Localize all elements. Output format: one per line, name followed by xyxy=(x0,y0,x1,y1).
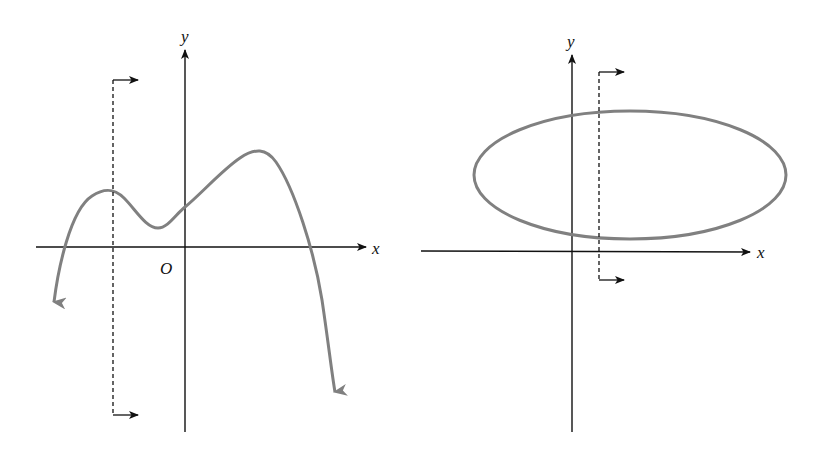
left-x-label: x xyxy=(371,239,380,258)
ellipse-curve xyxy=(474,111,786,239)
origin-label: O xyxy=(160,259,172,278)
left-y-label: y xyxy=(179,27,189,46)
left-panel: y x O xyxy=(36,27,380,432)
figure: y x O y x xyxy=(0,0,822,455)
right-panel: y x xyxy=(421,32,786,432)
right-x-axis xyxy=(421,251,750,252)
right-y-label: y xyxy=(565,32,575,51)
polynomial-curve xyxy=(54,151,335,392)
right-x-label: x xyxy=(756,243,765,262)
